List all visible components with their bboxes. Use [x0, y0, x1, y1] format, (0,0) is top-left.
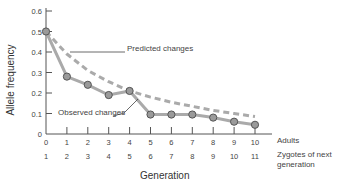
x-tick-label-adults: 1 — [65, 138, 69, 147]
observed-data-point — [210, 114, 217, 121]
y-tick-label: 0.1 — [32, 110, 42, 119]
x-tick-label-adults: 6 — [169, 138, 173, 147]
x-tick-label-zygotes: 8 — [190, 152, 194, 161]
observed-data-point — [251, 121, 258, 128]
y-tick-label: 0.6 — [32, 7, 42, 16]
observed-data-point — [126, 87, 133, 94]
observed-data-point — [189, 111, 196, 118]
x-tick-label-adults: 0 — [44, 138, 48, 147]
x-tick-label-zygotes: 9 — [211, 152, 215, 161]
x-axis-label: Generation — [140, 170, 189, 181]
zygotes-row-label-line1: Zygotes of next — [277, 151, 332, 159]
x-tick-label-zygotes: 10 — [230, 152, 238, 161]
x-tick-label-adults: 10 — [251, 138, 259, 147]
x-tick-label-zygotes: 2 — [65, 152, 69, 161]
y-axis-label: Allele frequency — [5, 44, 16, 115]
x-tick-label-adults: 5 — [148, 138, 152, 147]
zygotes-row-label-line2: generation — [277, 161, 315, 169]
observed-data-point — [105, 91, 112, 98]
x-tick-label-zygotes: 6 — [148, 152, 152, 161]
observed-data-point — [231, 118, 238, 125]
adults-row-label: Adults — [277, 137, 299, 145]
y-tick-label: 0.3 — [32, 69, 42, 78]
y-tick-label: 0.4 — [32, 48, 42, 57]
predicted-changes-annotation: Predicted changes — [127, 45, 193, 53]
x-tick-label-adults: 4 — [128, 138, 132, 147]
x-tick-label-zygotes: 3 — [86, 152, 90, 161]
x-tick-label-adults: 2 — [86, 138, 90, 147]
x-tick-label-adults: 3 — [107, 138, 111, 147]
x-tick-label-adults: 7 — [190, 138, 194, 147]
observed-data-point — [63, 73, 70, 80]
x-tick-label-zygotes: 4 — [107, 152, 111, 161]
x-tick-label-zygotes: 7 — [169, 152, 173, 161]
x-tick-label-zygotes: 11 — [251, 152, 259, 161]
observed-data-point — [147, 111, 154, 118]
x-tick-label-zygotes: 5 — [128, 152, 132, 161]
y-tick-label: 0.5 — [32, 28, 42, 37]
allele-frequency-chart: 00.10.20.30.40.50.6011223344556677889910… — [0, 0, 355, 192]
x-tick-label-adults: 8 — [211, 138, 215, 147]
observed-data-point — [42, 28, 49, 35]
observed-data-point — [84, 81, 91, 88]
observed-changes-annotation: Observed changes — [58, 109, 125, 117]
y-axis-label-box: Allele frequency — [4, 40, 16, 120]
y-tick-label: 0.2 — [32, 89, 42, 98]
observed-leader-line-2 — [124, 99, 138, 113]
x-tick-label-adults: 9 — [232, 138, 236, 147]
y-tick-label: 0 — [38, 130, 42, 139]
x-tick-label-zygotes: 1 — [44, 152, 48, 161]
observed-data-point — [168, 111, 175, 118]
